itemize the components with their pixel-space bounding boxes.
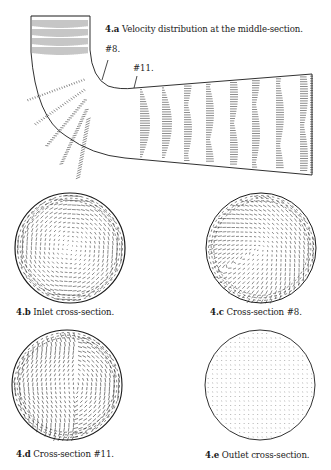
caption-4c: 4.c Cross-section #8. bbox=[210, 307, 302, 317]
caption-4e-title: Outlet cross-section. bbox=[222, 450, 310, 460]
caption-4a: 4.a Velocity distribution at the middle-… bbox=[105, 24, 303, 34]
caption-4d-title: Cross-section #11. bbox=[33, 449, 114, 459]
caption-4c-number: 4.c bbox=[210, 307, 224, 317]
cross-section-11 bbox=[12, 330, 122, 441]
caption-4a-number: 4.a bbox=[105, 24, 119, 34]
caption-4b: 4.b Inlet cross-section. bbox=[16, 307, 114, 317]
caption-4e-number: 4.e bbox=[205, 450, 219, 460]
caption-4e: 4.e Outlet cross-section. bbox=[205, 450, 310, 460]
caption-4b-number: 4.b bbox=[16, 307, 31, 317]
cross-section-8 bbox=[206, 193, 316, 304]
figure-canvas bbox=[0, 0, 331, 470]
marker-section-11: #11. bbox=[133, 63, 154, 73]
cross-section-outlet bbox=[205, 330, 315, 440]
caption-4a-title: Velocity distribution at the middle-sect… bbox=[122, 24, 303, 34]
caption-4d-number: 4.d bbox=[16, 449, 31, 459]
marker-section-8: #8. bbox=[105, 44, 120, 54]
caption-4d: 4.d Cross-section #11. bbox=[16, 449, 114, 459]
cross-section-inlet bbox=[15, 193, 125, 303]
caption-4b-title: Inlet cross-section. bbox=[33, 307, 114, 317]
caption-4c-title: Cross-section #8. bbox=[227, 307, 302, 317]
